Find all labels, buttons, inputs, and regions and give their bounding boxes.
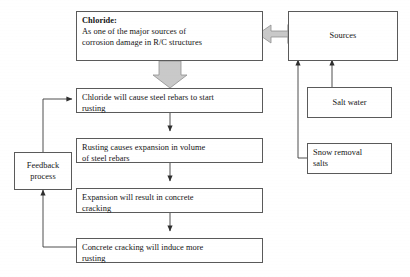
step-2-line-2: of steel rebars xyxy=(82,153,257,164)
block-arrow-chloride-to-step1 xyxy=(153,61,187,88)
connector-step4-to-feedback xyxy=(43,190,77,247)
sources-label: Sources xyxy=(330,30,357,41)
step-4-line-1: Concrete cracking will induce more xyxy=(82,242,257,253)
step-3-line-2: cracking xyxy=(82,203,257,214)
step-2-line-1: Rusting causes expansion in volume xyxy=(82,142,257,153)
feedback-line-2: process xyxy=(27,171,59,182)
step-concrete-cracking-box: Expansion will result in concrete cracki… xyxy=(76,188,263,213)
chloride-heading: Chloride: xyxy=(82,15,257,26)
chloride-line-1: As one of the major sources of xyxy=(82,26,257,37)
step-4-line-2: rusting xyxy=(82,253,257,264)
chloride-line-2: corrosion damage in R/C structures xyxy=(82,37,257,48)
snow-removal-line-1: Snow removal xyxy=(313,147,386,158)
chloride-box: Chloride: As one of the major sources of… xyxy=(76,11,263,61)
step-3-line-1: Expansion will result in concrete xyxy=(82,192,257,203)
snow-removal-salts-box: Snow removal salts xyxy=(307,143,392,174)
connector-feedback-to-step1 xyxy=(43,99,72,152)
feedback-line-1: Feedback xyxy=(27,160,59,171)
sources-box: Sources xyxy=(288,11,398,61)
feedback-process-box: Feedback process xyxy=(14,152,72,190)
snow-removal-line-2: salts xyxy=(313,158,386,169)
step-rusting-start-box: Chloride will cause steel rebars to star… xyxy=(76,88,263,113)
salt-water-label: Salt water xyxy=(332,97,366,108)
salt-water-box: Salt water xyxy=(307,87,392,118)
connector-snowremoval-to-sources xyxy=(298,60,307,158)
step-1-line-1: Chloride will cause steel rebars to star… xyxy=(82,92,257,103)
step-1-line-2: rusting xyxy=(82,103,257,114)
step-induce-more-rusting-box: Concrete cracking will induce more rusti… xyxy=(76,238,263,263)
step-expansion-volume-box: Rusting causes expansion in volume of st… xyxy=(76,138,263,163)
flowchart-canvas: Chloride: As one of the major sources of… xyxy=(0,0,410,277)
